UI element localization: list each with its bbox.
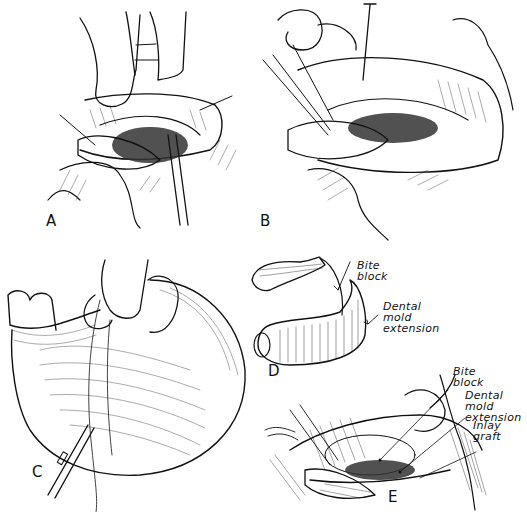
panel-e: Bite block Dental mold extension Inlay g…	[250, 370, 527, 512]
panel-label-e: E	[388, 490, 397, 505]
surgical-illustration-b	[258, 0, 527, 240]
panel-label-c: C	[32, 465, 42, 480]
annotation-inlay-graft-e: Inlay graft	[473, 420, 501, 442]
panel-d: Bite block Dental mold extension D	[250, 240, 527, 370]
panel-label-b: B	[260, 214, 270, 229]
annotation-bite-block-e: Bite block	[453, 366, 484, 388]
panel-a: A	[0, 0, 264, 240]
surgical-illustration-a	[0, 0, 264, 240]
annotation-bite-block-d: Bite block	[357, 260, 388, 282]
annotation-dental-mold-extension-d: Dental mold extension	[383, 301, 440, 334]
panel-label-a: A	[46, 214, 56, 229]
panel-b: B	[258, 0, 527, 240]
panel-c: C	[0, 240, 250, 512]
